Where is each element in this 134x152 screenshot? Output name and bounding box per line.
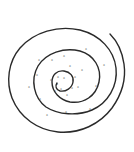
spiral-mark: *	[69, 64, 71, 69]
spiral-mark: *	[54, 89, 56, 94]
spiral-mark: *	[63, 54, 65, 59]
spiral-mark: *	[95, 84, 97, 89]
spiral-mark: *	[65, 110, 67, 115]
spiral-mark: *	[74, 75, 76, 80]
spiral-mark: *	[103, 63, 105, 68]
spiral-mark: *	[28, 85, 30, 90]
spiral-mark: *	[71, 86, 73, 91]
spiral-mark: *	[56, 82, 58, 87]
spiral-mark: *	[50, 78, 52, 83]
spiral-mark: *	[57, 75, 59, 80]
spiral-mark: *	[81, 68, 83, 73]
spiral-marks: ************************	[28, 47, 105, 118]
spiral-mark: *	[60, 87, 62, 92]
spiral-mark: *	[66, 93, 68, 98]
spiral-diagram: ************************	[0, 0, 134, 152]
spiral-mark: *	[46, 113, 48, 118]
spiral-mark: *	[77, 85, 79, 90]
spiral-mark: *	[39, 97, 41, 102]
spiral-mark: *	[89, 107, 91, 112]
spiral-curve	[9, 28, 125, 132]
spiral-mark: *	[85, 47, 87, 52]
spiral-mark: *	[63, 76, 65, 81]
spiral-mark: *	[36, 73, 38, 78]
spiral-mark: *	[51, 58, 53, 63]
spiral-mark: *	[38, 58, 40, 63]
